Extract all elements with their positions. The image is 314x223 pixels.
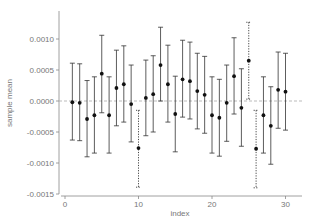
- errorbar-point: [129, 65, 134, 142]
- y-tick-label: -0.0005: [27, 128, 55, 137]
- errorbar-point: [261, 77, 266, 153]
- errorbar-point: [202, 56, 207, 133]
- x-tick-label: 20: [208, 200, 217, 209]
- errorbar-point: [268, 87, 273, 165]
- errorbar-point: [187, 42, 192, 119]
- y-tick-label: -0.0015: [27, 190, 55, 199]
- errorbar-point: [77, 64, 82, 141]
- x-tick-label: 30: [281, 200, 290, 209]
- x-axis: 0102030: [61, 196, 302, 209]
- errorbar-point: [180, 40, 185, 117]
- y-tick-label: 0.0005: [30, 66, 55, 75]
- errorbar-point: [85, 81, 90, 157]
- errorbar-point: [195, 53, 200, 129]
- errorbar-point: [107, 77, 112, 153]
- errorbar-point: [158, 27, 163, 101]
- errorbar-point: [217, 79, 222, 156]
- errorbar-chart: 0.00100.00050.0000-0.0005-0.0010-0.0015 …: [0, 0, 314, 223]
- errorbar-point: [92, 77, 97, 153]
- errorbar-point: [151, 56, 156, 132]
- y-tick-label: 0.0000: [30, 97, 55, 106]
- errorbar-point: [246, 22, 251, 99]
- errorbar-point: [283, 53, 288, 130]
- errorbar-point: [70, 63, 75, 140]
- y-tick-label: -0.0010: [27, 159, 55, 168]
- x-axis-label: index: [170, 209, 189, 218]
- errorbar-point: [239, 69, 244, 146]
- errorbar-point: [254, 110, 259, 188]
- errorbar-point: [143, 60, 148, 136]
- y-axis-label: sample mean: [5, 79, 14, 127]
- errorbar-point: [224, 65, 229, 141]
- errorbar-point: [136, 110, 141, 187]
- errorbar-point: [114, 50, 119, 126]
- errorbar-point: [165, 45, 170, 122]
- errorbar-point: [232, 38, 237, 114]
- errorbar-point: [210, 77, 215, 153]
- data-series: [70, 22, 288, 188]
- x-tick-label: 10: [134, 200, 143, 209]
- y-tick-label: 0.0010: [30, 35, 55, 44]
- x-tick-label: 0: [63, 200, 68, 209]
- errorbar-point: [276, 52, 281, 128]
- y-axis: 0.00100.00050.0000-0.0005-0.0010-0.0015: [27, 11, 59, 199]
- errorbar-point: [173, 76, 178, 152]
- errorbar-point: [121, 46, 126, 122]
